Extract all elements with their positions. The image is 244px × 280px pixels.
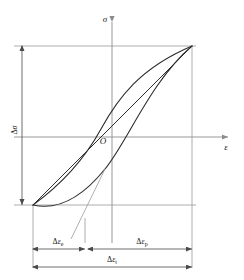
delta-epsilon-e-label: Δεe — [53, 237, 64, 247]
x-axis-label: ε — [224, 142, 228, 152]
loop-chord-line — [33, 46, 192, 205]
delta-sigma-label: Δσ — [10, 124, 19, 134]
dimension-delta-epsilon-p: Δεp — [88, 237, 192, 249]
delta-epsilon-p-label: Δεp — [136, 237, 147, 247]
hysteresis-loop — [33, 46, 192, 206]
guide-lines — [14, 46, 196, 268]
hysteresis-figure: Δσ Δεe Δεp Δεt σ ε O — [0, 0, 244, 280]
dimension-delta-epsilon-t: Δεt — [33, 255, 192, 267]
y-axis-label: σ — [103, 14, 108, 24]
elastic-tangent-line — [71, 169, 105, 239]
origin-label: O — [100, 136, 107, 146]
dimension-delta-sigma: Δσ — [10, 46, 22, 205]
delta-epsilon-t-label: Δεt — [107, 255, 117, 265]
axes — [14, 22, 228, 243]
dimension-delta-epsilon-e: Δεe — [33, 237, 85, 249]
hysteresis-chart-svg: Δσ Δεe Δεp Δεt σ ε O — [0, 0, 244, 280]
